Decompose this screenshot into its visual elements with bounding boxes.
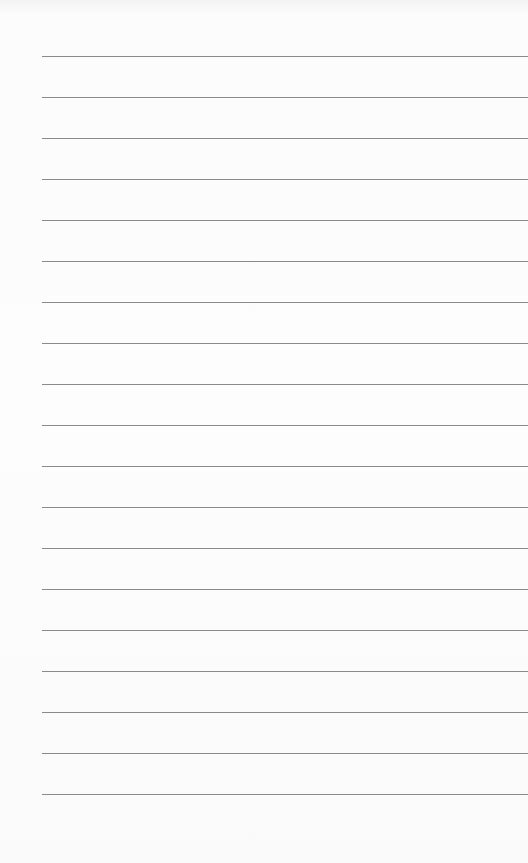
ruled-line [42,507,528,508]
ruled-line [42,302,528,303]
ruled-line [42,138,528,139]
ruled-line [42,630,528,631]
ruled-line [42,753,528,754]
ruled-line [42,56,528,57]
ruled-line [42,589,528,590]
ruled-line [42,343,528,344]
ruled-line [42,220,528,221]
lined-paper [0,0,528,863]
ruled-line [42,548,528,549]
ruled-line [42,712,528,713]
ruled-line [42,97,528,98]
ruled-line [42,794,528,795]
ruled-line [42,261,528,262]
ruled-line [42,425,528,426]
ruled-line [42,671,528,672]
ruled-line [42,179,528,180]
ruled-line [42,384,528,385]
ruled-line [42,466,528,467]
